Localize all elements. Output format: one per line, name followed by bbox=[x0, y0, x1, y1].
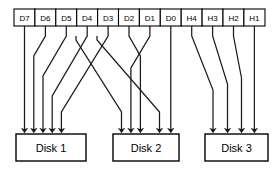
wire-bundle bbox=[25, 26, 255, 130]
wire-d6-to-disk1 bbox=[34, 26, 46, 130]
disk-label-1: Disk 1 bbox=[36, 142, 67, 154]
disk-label-3: Disk 3 bbox=[221, 142, 252, 154]
source-cell-label-d5: D5 bbox=[61, 14, 72, 23]
source-cell-label-d2: D2 bbox=[124, 14, 135, 23]
wire-h3-to-disk3 bbox=[213, 26, 228, 130]
wire-d3-to-disk1 bbox=[61, 26, 108, 130]
source-cell-label-h1: H1 bbox=[249, 14, 260, 23]
source-cell-label-h2: H2 bbox=[228, 14, 239, 23]
source-cell-label-d6: D6 bbox=[40, 14, 51, 23]
source-cell-label-d3: D3 bbox=[103, 14, 114, 23]
disk-distribution-diagram: D7 D6 D5 D4 D3 D2 D1 D0 H4 H3 H2 H1 bbox=[0, 0, 277, 171]
source-cell-label-d4: D4 bbox=[82, 14, 93, 23]
disk-row: Disk 1 Disk 2 Disk 3 bbox=[16, 134, 268, 161]
source-cell-label-d1: D1 bbox=[145, 14, 156, 23]
wire-h4-to-disk3 bbox=[192, 26, 213, 130]
disk-label-2: Disk 2 bbox=[131, 142, 162, 154]
source-cell-label-h4: H4 bbox=[187, 14, 198, 23]
wire-cross-to-disk2-b bbox=[97, 36, 160, 130]
wire-h2-to-disk3 bbox=[234, 26, 242, 130]
source-cell-label-d0: D0 bbox=[166, 14, 177, 23]
diagram-canvas: D7 D6 D5 D4 D3 D2 D1 D0 H4 H3 H2 H1 bbox=[0, 0, 277, 171]
source-cell-label-d7: D7 bbox=[19, 14, 30, 23]
source-block-row: D7 D6 D5 D4 D3 D2 D1 D0 H4 H3 H2 H1 bbox=[14, 9, 265, 26]
source-cell-label-h3: H3 bbox=[207, 14, 218, 23]
